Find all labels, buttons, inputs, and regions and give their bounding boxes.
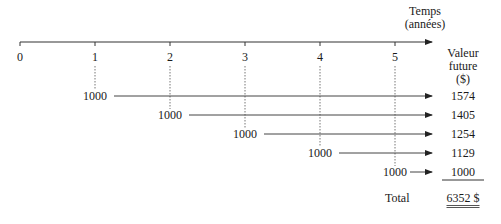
cash-flow-amount-1: 1000 bbox=[83, 90, 107, 103]
tick-label-2: 2 bbox=[167, 51, 173, 64]
future-value-header: Valeur future ($) bbox=[447, 47, 478, 86]
future-value-4: 1129 bbox=[451, 147, 475, 160]
tick-label-1: 1 bbox=[92, 51, 98, 64]
axis-title: Temps (années) bbox=[405, 5, 446, 31]
dotted-guides bbox=[95, 66, 395, 166]
future-value-5: 1000 bbox=[451, 166, 475, 179]
cash-flow-amount-2: 1000 bbox=[158, 109, 182, 122]
total-label: Total bbox=[385, 192, 410, 205]
tick-label-0: 0 bbox=[17, 51, 23, 64]
cash-flow-amount-4: 1000 bbox=[308, 147, 332, 160]
future-value-1: 1574 bbox=[451, 90, 475, 103]
tick-label-3: 3 bbox=[242, 51, 248, 64]
axis-title-line2: (années) bbox=[405, 18, 446, 31]
tick-label-5: 5 bbox=[392, 51, 398, 64]
cash-flow-amount-3: 1000 bbox=[233, 128, 257, 141]
header-line3: ($) bbox=[447, 73, 478, 86]
total-value: 6352 $ bbox=[447, 192, 480, 208]
future-value-2: 1405 bbox=[451, 109, 475, 122]
cash-flow-amount-5: 1000 bbox=[383, 166, 407, 179]
future-value-3: 1254 bbox=[451, 128, 475, 141]
tick-label-4: 4 bbox=[317, 51, 323, 64]
timeline-diagram bbox=[0, 0, 501, 224]
